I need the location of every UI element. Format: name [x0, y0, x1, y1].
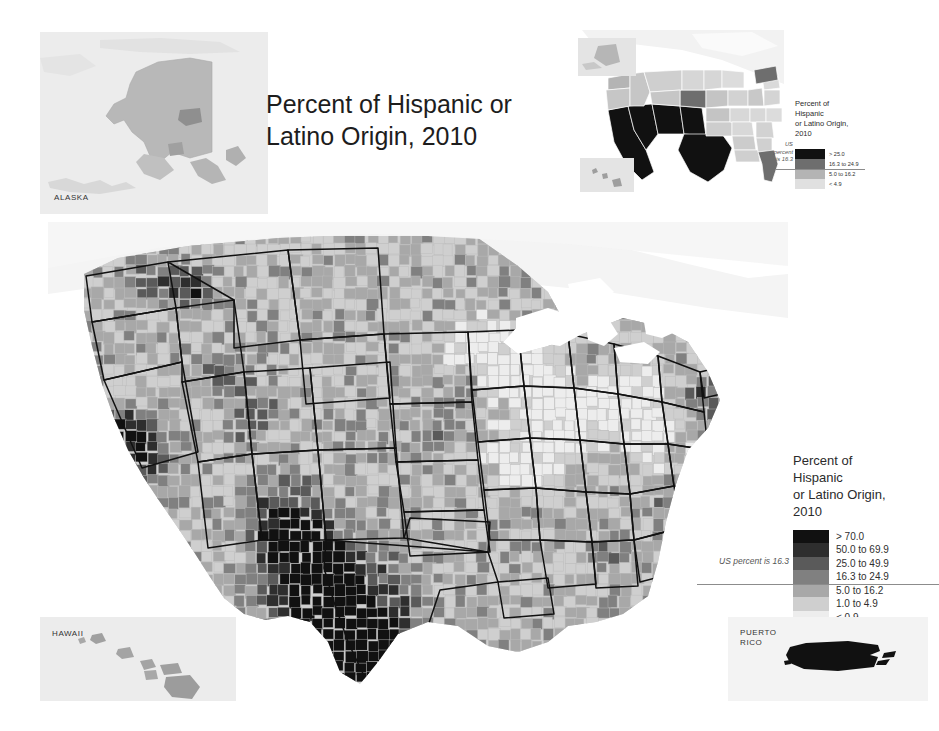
inset-legend-swatches: > 25.0 16.3 to 24.9 5.0 to 16.2 < 4.9 — [795, 149, 859, 189]
legend-swatch — [793, 543, 829, 557]
legend-class-label: < 4.9 — [829, 181, 842, 187]
legend-swatch — [793, 584, 829, 598]
legend-swatch — [793, 530, 829, 544]
legend-class-label: > 25.0 — [829, 151, 845, 157]
puerto-rico-inset-label: PUERTO RICO — [740, 628, 777, 648]
legend-swatch — [795, 169, 825, 179]
inset-us-percent-line — [775, 169, 865, 170]
legend-class-label: 5.0 to 16.2 — [836, 585, 883, 596]
legend-class-row: 5.0 to 16.2 — [793, 584, 889, 598]
inset-legend: Percent of Hispanic or Latino Origin, 20… — [795, 99, 859, 189]
alaska-inset-panel: ALASKA — [40, 32, 268, 214]
puerto-rico-inset-panel: PUERTO RICO — [728, 617, 928, 701]
legend-class-row: 16.3 to 24.9 — [795, 159, 859, 169]
legend-class-row: > 25.0 — [795, 149, 859, 159]
legend-class-row: 50.0 to 69.9 — [793, 543, 889, 557]
main-legend-title: Percent of Hispanic or Latino Origin, 20… — [793, 452, 889, 521]
inset-us-percent-note: US percent is 16.3 — [767, 141, 793, 164]
legend-class-label: 5.0 to 16.2 — [829, 171, 855, 177]
legend-class-label: 1.0 to 4.9 — [836, 598, 878, 609]
legend-class-label: 16.3 to 24.9 — [836, 571, 889, 582]
legend-swatch — [793, 557, 829, 571]
alaska-map — [40, 32, 268, 214]
main-us-percent-note: US percent is 16.3 — [693, 556, 789, 566]
legend-class-label: 16.3 to 24.9 — [829, 161, 859, 167]
hawaii-inset-label: HAWAII — [52, 629, 83, 639]
alaska-inset-label: ALASKA — [54, 193, 89, 203]
legend-class-row: 1.0 to 4.9 — [793, 597, 889, 611]
legend-swatch — [793, 597, 829, 611]
legend-swatch — [795, 179, 825, 189]
main-legend: Percent of Hispanic or Latino Origin, 20… — [793, 452, 889, 624]
legend-swatch — [793, 570, 829, 584]
main-legend-swatches: > 70.0 50.0 to 69.9 25.0 to 49.9 16.3 to… — [793, 530, 889, 625]
legend-class-label: 50.0 to 69.9 — [836, 544, 889, 555]
legend-class-row: 5.0 to 16.2 — [795, 169, 859, 179]
legend-class-label: 25.0 to 49.9 — [836, 558, 889, 569]
legend-class-label: > 70.0 — [836, 531, 864, 542]
hawaii-inset-panel: HAWAII — [40, 617, 236, 701]
legend-class-row: > 70.0 — [793, 530, 889, 544]
state-overview-map — [572, 30, 784, 210]
legend-swatch — [795, 149, 825, 159]
legend-swatch — [795, 159, 825, 169]
legend-class-row: < 4.9 — [795, 179, 859, 189]
main-us-percent-line — [697, 584, 939, 585]
inset-legend-title: Percent of Hispanic or Latino Origin, 20… — [795, 99, 859, 140]
legend-class-row: 16.3 to 24.9 — [793, 570, 889, 584]
legend-class-row: 25.0 to 49.9 — [793, 557, 889, 571]
page-title: Percent of Hispanic or Latino Origin, 20… — [266, 88, 566, 152]
state-overview-svg — [572, 30, 784, 210]
